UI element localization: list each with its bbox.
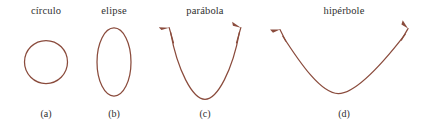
parabola-shape xyxy=(150,20,260,106)
conic-caption-elipse: (b) xyxy=(80,108,148,120)
ellipse-shape xyxy=(80,20,148,106)
circle-outline xyxy=(25,41,68,84)
hyperbola-right-arrow-icon xyxy=(401,29,408,40)
conic-panel-parabola: parábola (c) xyxy=(150,0,260,128)
conic-title-parabola: parábola xyxy=(150,4,260,17)
conic-panel-circulo: círculo (a) xyxy=(0,0,92,128)
parabola-curve xyxy=(171,32,240,99)
conic-panel-elipse: elipse (b) xyxy=(80,0,148,128)
hyperbola-curve xyxy=(283,34,405,93)
conic-sections-figure: círculo (a) elipse (b) parábola xyxy=(0,0,430,128)
conic-caption-parabola: (c) xyxy=(150,108,260,120)
circle-shape xyxy=(0,20,92,106)
conic-caption-hiperbole: (d) xyxy=(258,108,430,120)
parabola-left-arrow-icon xyxy=(169,28,173,43)
conic-title-circulo: círculo xyxy=(0,4,92,17)
conic-title-elipse: elipse xyxy=(80,4,148,17)
conic-caption-circulo: (a) xyxy=(0,108,92,120)
hyperbola-left-arrow-icon xyxy=(280,30,286,41)
parabola-right-arrow-icon xyxy=(237,28,241,43)
conic-title-hiperbole: hipérbole xyxy=(258,4,430,17)
conic-panel-hiperbole: hipérbole (d) xyxy=(258,0,430,128)
ellipse-outline xyxy=(97,28,131,96)
hyperbola-shape xyxy=(258,20,430,106)
